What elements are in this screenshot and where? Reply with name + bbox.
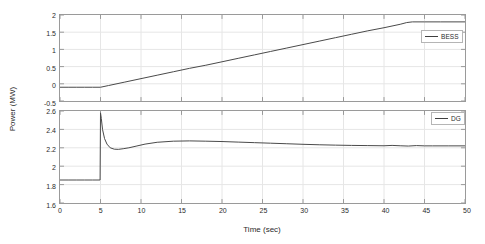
dg-legend-line-swatch [435, 118, 448, 119]
x-tick-label: 50 [463, 207, 471, 214]
y-axis-title: Power (MW) [9, 87, 17, 131]
y-tick-label: 2.6 [46, 108, 56, 115]
dg-plot-area: 1.61.822.22.42.6 05101520253035404550 [59, 110, 466, 204]
x-tick-label: 45 [422, 207, 430, 214]
bess-plot-canvas [60, 15, 465, 101]
x-axis-title: Time (sec) [243, 226, 280, 234]
y-tick-label: 2 [52, 12, 56, 19]
x-tick-label: 25 [260, 207, 268, 214]
y-tick-label: 1 [52, 47, 56, 54]
x-tick-label: 5 [99, 207, 103, 214]
x-tick-label: 20 [219, 207, 227, 214]
y-tick-label: -0.5 [44, 100, 56, 107]
y-tick-label: 1.8 [46, 183, 56, 190]
y-tick-label: 2.4 [46, 126, 56, 133]
x-tick-label: 0 [58, 207, 62, 214]
x-tick-label: 40 [382, 207, 390, 214]
y-tick-label: 1.6 [46, 202, 56, 209]
y-tick-label: 2.2 [46, 145, 56, 152]
x-tick-label: 10 [137, 207, 145, 214]
dg-plot-canvas [60, 111, 465, 203]
dg-legend[interactable]: DG [431, 112, 465, 125]
y-tick-label: 2 [52, 164, 56, 171]
bess-legend[interactable]: BESS [421, 30, 463, 43]
y-tick-label: 1.5 [46, 29, 56, 36]
bess-legend-label: BESS [441, 33, 459, 40]
bess-legend-line-swatch [425, 36, 438, 37]
bess-plot-area: -0.500.511.52 [59, 14, 466, 102]
y-tick-label: 0 [52, 82, 56, 89]
dg-legend-label: DG [451, 115, 461, 122]
y-tick-label: 0.5 [46, 64, 56, 71]
figure-panel: -0.500.511.52 BESS 1.61.822.22.42.6 0510… [0, 0, 485, 244]
x-tick-label: 15 [178, 207, 186, 214]
x-tick-label: 35 [341, 207, 349, 214]
x-tick-label: 30 [300, 207, 308, 214]
